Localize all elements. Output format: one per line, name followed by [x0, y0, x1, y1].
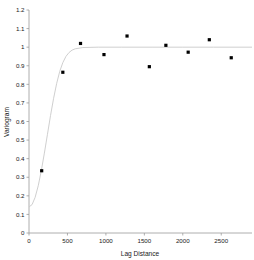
y-tick-label: 0.1 — [16, 211, 25, 218]
y-tick-label: 1.2 — [16, 6, 25, 13]
x-tick-label: 1500 — [137, 237, 151, 244]
y-tick-label: 0 — [21, 229, 25, 236]
y-tick-label: 0.9 — [16, 62, 25, 69]
data-point — [125, 34, 128, 37]
x-tick-label: 2000 — [176, 237, 190, 244]
data-point — [230, 56, 233, 59]
x-tick-label-group: 05001000150020002500 — [27, 237, 228, 244]
y-tick-label: 0.8 — [16, 81, 25, 88]
y-tick-label: 1 — [21, 43, 25, 50]
y-tick-label: 0.6 — [16, 118, 25, 125]
x-axis: 05001000150020002500 — [27, 233, 252, 244]
chart-canvas: 00.10.20.30.40.50.60.70.80.911.11.2 0500… — [0, 0, 254, 260]
x-tick-label: 0 — [27, 237, 31, 244]
y-tick-label: 0.2 — [16, 192, 25, 199]
data-point — [102, 53, 105, 56]
y-tick-label: 0.4 — [16, 155, 25, 162]
y-tick-label: 0.7 — [16, 99, 25, 106]
y-axis: 00.10.20.30.40.50.60.70.80.911.11.2 — [16, 6, 29, 236]
x-tick-label: 1000 — [99, 237, 113, 244]
x-axis-title: Lag Distance — [121, 250, 160, 258]
data-point — [164, 44, 167, 47]
y-axis-title: Variogram — [3, 107, 11, 137]
x-tick-label: 2500 — [214, 237, 228, 244]
data-point — [208, 38, 211, 41]
data-point-group — [40, 34, 233, 172]
data-point — [40, 169, 43, 172]
variogram-chart: 00.10.20.30.40.50.60.70.80.911.11.2 0500… — [0, 0, 254, 260]
data-point — [79, 42, 82, 45]
data-point — [61, 71, 64, 74]
y-tick-label: 0.5 — [16, 136, 25, 143]
y-tick-label: 0.3 — [16, 173, 25, 180]
y-tick-label: 1.1 — [16, 25, 25, 32]
data-point — [187, 51, 190, 54]
x-tick-label: 500 — [62, 237, 73, 244]
data-point — [148, 65, 151, 68]
y-tick-label-group: 00.10.20.30.40.50.60.70.80.911.11.2 — [16, 6, 25, 236]
